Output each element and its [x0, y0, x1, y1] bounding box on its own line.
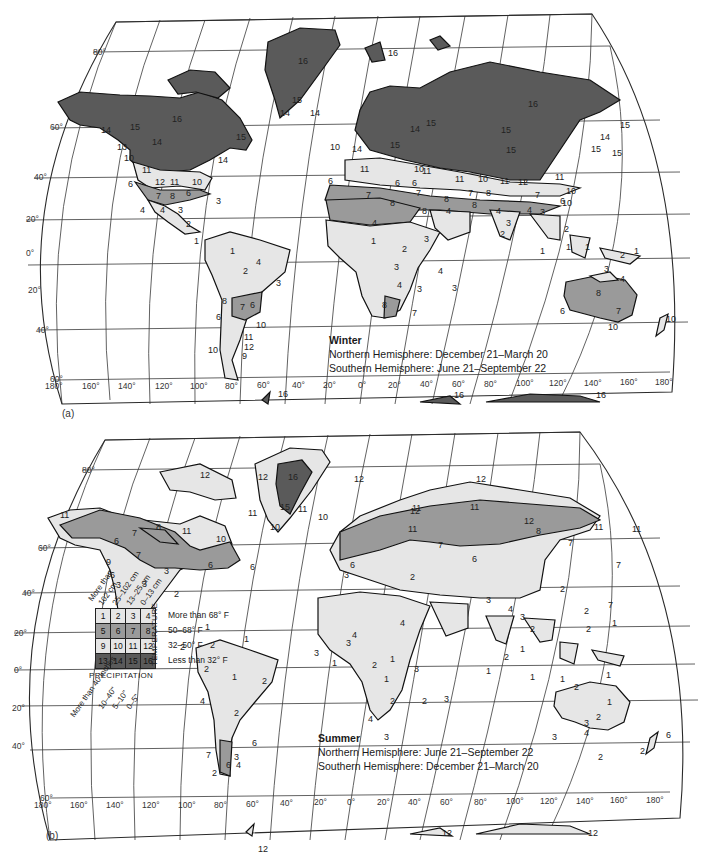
svg-text:80°: 80° [484, 379, 497, 389]
svg-text:4: 4 [200, 696, 205, 706]
australia [554, 682, 630, 730]
svg-text:11: 11 [422, 166, 431, 176]
svg-text:20°: 20° [14, 628, 27, 638]
svg-text:3: 3 [444, 694, 449, 704]
svg-text:180°: 180° [646, 795, 664, 805]
temp-f-3: Less than 32° F [168, 655, 228, 665]
svg-text:10: 10 [192, 177, 202, 187]
svg-text:8: 8 [486, 188, 491, 198]
svg-text:4: 4 [508, 604, 513, 614]
svg-text:2: 2 [174, 589, 179, 599]
temperature-axis-label: TEMPERATURE [150, 603, 159, 666]
svg-text:11: 11 [455, 174, 464, 184]
legend-cell: 6 [111, 624, 125, 638]
svg-text:80°: 80° [93, 47, 106, 57]
legend-cell: 9 [96, 639, 110, 653]
legend-cell: 10 [111, 639, 125, 653]
svg-text:7: 7 [416, 188, 421, 198]
svg-text:3: 3 [506, 218, 511, 228]
svg-text:6: 6 [472, 554, 477, 564]
svg-text:7: 7 [206, 750, 211, 760]
southern-hemisphere-dates: Southern Hemisphere: June 21–September 2… [329, 361, 548, 375]
svg-text:1: 1 [232, 672, 237, 682]
temp-f-2: 32–50° F [168, 640, 203, 650]
svg-text:2: 2 [402, 244, 407, 254]
svg-text:7: 7 [468, 188, 473, 198]
svg-text:4: 4 [400, 618, 405, 628]
svg-text:40°: 40° [34, 172, 47, 182]
svg-text:60°: 60° [452, 379, 465, 389]
svg-text:120°: 120° [540, 796, 558, 806]
svg-text:12: 12 [258, 844, 268, 854]
svg-text:14: 14 [352, 144, 362, 154]
svg-text:11: 11 [170, 177, 179, 187]
svg-text:3: 3 [346, 638, 351, 648]
svg-text:7: 7 [132, 528, 137, 538]
svg-text:100°: 100° [178, 800, 196, 810]
svg-text:20°: 20° [314, 797, 327, 807]
svg-text:4: 4 [256, 257, 261, 267]
svg-text:13: 13 [117, 142, 127, 152]
svg-text:4: 4 [496, 206, 501, 216]
svg-text:2: 2 [204, 664, 209, 674]
svg-text:140°: 140° [576, 796, 594, 806]
svg-text:3: 3 [314, 648, 319, 658]
svg-text:60°: 60° [440, 797, 453, 807]
svg-text:80°: 80° [82, 465, 95, 475]
svg-text:0°: 0° [26, 248, 34, 258]
svg-text:7: 7 [156, 191, 161, 201]
svg-text:11: 11 [632, 524, 641, 534]
svg-text:14: 14 [410, 124, 420, 134]
svg-text:14: 14 [280, 108, 290, 118]
svg-text:16: 16 [388, 48, 398, 58]
svg-text:3: 3 [604, 264, 609, 274]
winter-map-panel: 16 15 14 14 16 15 14 14 15 14 13 10 11 1… [0, 0, 701, 420]
svg-text:40°: 40° [280, 798, 293, 808]
svg-text:100°: 100° [190, 381, 208, 391]
svg-text:10: 10 [318, 512, 328, 522]
svg-text:2: 2 [500, 229, 505, 239]
svg-text:8: 8 [536, 526, 541, 536]
svg-text:9: 9 [106, 557, 111, 567]
svg-text:160°: 160° [82, 381, 100, 391]
svg-text:4: 4 [438, 266, 443, 276]
svg-text:1: 1 [530, 672, 535, 682]
svg-text:180°: 180° [655, 377, 673, 387]
svg-text:7: 7 [616, 560, 621, 570]
svg-text:14: 14 [101, 125, 111, 135]
svg-text:20°: 20° [26, 214, 39, 224]
svg-text:11: 11 [298, 504, 307, 514]
legend-cell: 5 [96, 624, 110, 638]
svg-text:2: 2 [620, 250, 625, 260]
svg-text:120°: 120° [155, 381, 173, 391]
svg-text:180°: 180° [34, 800, 52, 810]
svg-text:12: 12 [258, 472, 268, 482]
svg-text:16: 16 [528, 99, 538, 109]
svg-text:120°: 120° [142, 800, 160, 810]
svg-text:3: 3 [452, 283, 457, 293]
svg-text:7: 7 [616, 306, 621, 316]
svg-text:15: 15 [620, 120, 630, 130]
svg-text:2: 2 [640, 746, 645, 756]
svg-text:10: 10 [208, 345, 218, 355]
svg-text:100°: 100° [506, 796, 524, 806]
svg-text:6: 6 [328, 176, 333, 186]
svg-text:80°: 80° [214, 800, 227, 810]
svg-text:12: 12 [200, 470, 210, 480]
svg-text:11: 11 [60, 510, 69, 520]
svg-text:0°: 0° [358, 380, 366, 390]
svg-text:6: 6 [250, 562, 255, 572]
svg-text:2: 2 [560, 584, 565, 594]
svg-text:1: 1 [566, 242, 571, 252]
svg-text:1: 1 [390, 654, 395, 664]
svg-text:12: 12 [476, 474, 486, 484]
svg-text:7: 7 [568, 538, 573, 548]
svg-text:60°: 60° [50, 122, 63, 132]
svg-text:6: 6 [395, 178, 400, 188]
svg-text:1: 1 [540, 246, 545, 256]
svg-text:6: 6 [666, 730, 671, 740]
svg-text:6: 6 [250, 300, 255, 310]
svg-text:16: 16 [278, 389, 288, 399]
svg-text:160°: 160° [620, 377, 638, 387]
svg-text:11: 11 [408, 524, 417, 534]
